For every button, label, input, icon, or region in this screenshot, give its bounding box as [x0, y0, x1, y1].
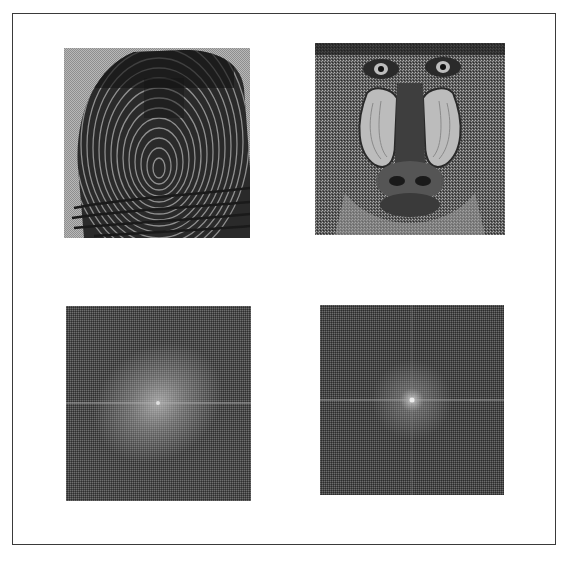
mandrill-image: Mandrill image [315, 43, 505, 235]
fingerprint-graphic [64, 48, 250, 238]
mandrill-spectrum-graphic [320, 305, 504, 495]
mandrill-spectrum-image: Fourier spectrum of mandrill [320, 305, 504, 495]
fingerprint-image: Fingerprint image [64, 48, 250, 238]
fingerprint-spectrum-graphic [66, 306, 251, 501]
fingerprint-spectrum-image: Fourier spectrum of fingerprint [66, 306, 251, 501]
mandrill-graphic [315, 43, 505, 235]
